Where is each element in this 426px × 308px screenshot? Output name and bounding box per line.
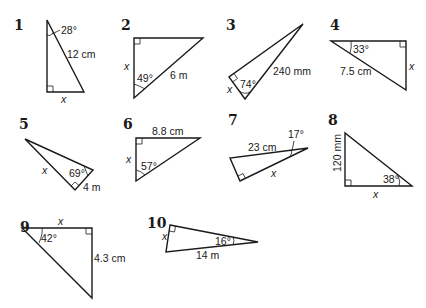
problem-5: 5 69° 4 m x (19, 116, 101, 193)
problem-number: 10 (147, 215, 167, 231)
problem-8: 8 38° 120 mm x (328, 112, 412, 200)
problem-3: 3 74° 240 mm x (226, 17, 311, 99)
angle-label: 38° (383, 173, 399, 185)
right-angle-marker (86, 228, 92, 234)
angle-label: 33° (353, 43, 369, 55)
angle-label: 28° (61, 24, 77, 36)
problem-number: 8 (328, 112, 338, 128)
angle-arc (47, 33, 53, 36)
angle-label: 17° (288, 128, 304, 140)
unknown-label: x (60, 93, 67, 105)
problem-number: 5 (19, 116, 29, 132)
right-angle-marker (134, 38, 140, 44)
right-angle-marker (47, 86, 53, 92)
right-triangle (345, 133, 412, 186)
angle-label: 74° (240, 78, 256, 90)
side-label: 23 cm (248, 141, 277, 153)
angle-label: 42° (41, 232, 57, 244)
angle-arc (350, 41, 351, 53)
problem-7: 7 17° 23 cm x (228, 112, 308, 181)
problem-number: 1 (14, 17, 24, 33)
side-label: 7.5 cm (340, 65, 372, 77)
right-triangle (166, 225, 258, 252)
unknown-label: x (408, 60, 415, 72)
problem-10: 10 x 16° 14 m (147, 215, 258, 261)
problem-number: 2 (121, 17, 131, 33)
right-angle-marker (71, 182, 79, 186)
right-angle-marker (400, 41, 406, 47)
problem-6: 6 8.8 cm x 57° (123, 116, 200, 181)
problem-1: 1 28° 12 cm x (14, 17, 96, 105)
unknown-label: x (161, 230, 168, 242)
side-label: 120 mm (331, 134, 343, 172)
problem-number: 4 (330, 17, 340, 33)
side-label: 6 m (170, 69, 188, 81)
right-triangle (22, 228, 92, 298)
problem-number: 3 (226, 17, 236, 33)
side-label: 12 cm (67, 48, 96, 60)
angle-label: 49° (137, 72, 153, 84)
problem-4: 4 33° 7.5 cm x (330, 17, 415, 90)
angle-arc (233, 237, 234, 245)
side-label: 14 m (196, 249, 220, 261)
angle-label: 57° (141, 160, 157, 172)
triangle-exercise-sheet: 1 28° 12 cm x 2 x 49° 6 m 3 74° 240 mm x… (0, 0, 426, 308)
unknown-label: x (57, 215, 64, 227)
unknown-label: x (372, 188, 379, 200)
side-label: 240 mm (273, 65, 311, 77)
problem-number: 6 (123, 116, 133, 132)
problem-2: 2 x 49° 6 m (121, 17, 203, 98)
unknown-label: x (226, 83, 233, 95)
problem-9: 9 x 42° 4.3 cm (20, 215, 126, 298)
angle-label: 69° (69, 167, 85, 179)
unknown-label: x (41, 164, 48, 176)
side-label: 4.3 cm (94, 252, 126, 264)
problem-number: 9 (20, 219, 30, 235)
unknown-label: x (125, 153, 132, 165)
unknown-label: x (123, 60, 130, 72)
side-label: 8.8 cm (152, 125, 184, 137)
side-label: 4 m (83, 181, 101, 193)
problem-number: 7 (228, 112, 238, 128)
angle-label: 16° (215, 235, 231, 247)
right-angle-marker (345, 180, 351, 186)
angle-arc (134, 84, 145, 89)
right-angle-marker (136, 138, 142, 144)
unknown-label: x (270, 167, 277, 179)
